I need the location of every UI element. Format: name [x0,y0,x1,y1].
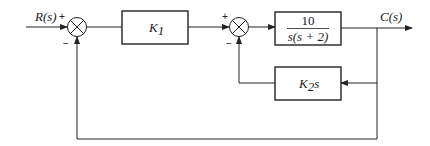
k1-block: K1 [122,11,188,44]
plant-block: 10 s(s + 2) [275,12,341,45]
output-signal: C(s) [341,9,412,28]
plus-sign: + [222,11,228,22]
summing-junction-2: + − [222,11,249,49]
svg-text:10: 10 [302,13,315,28]
block-diagram: R(s) + − K1 + − 10 s(s + 2) C(s) [0,0,430,146]
minus-sign: − [63,38,69,49]
svg-text:C(s): C(s) [380,9,402,24]
input-label: R(s) [34,9,57,24]
plus-sign: + [59,11,65,22]
minus-sign: − [226,38,232,49]
k2s-block: K2s [275,67,341,100]
summing-junction-1: + − [59,11,87,49]
svg-text:s(s + 2): s(s + 2) [288,29,329,44]
